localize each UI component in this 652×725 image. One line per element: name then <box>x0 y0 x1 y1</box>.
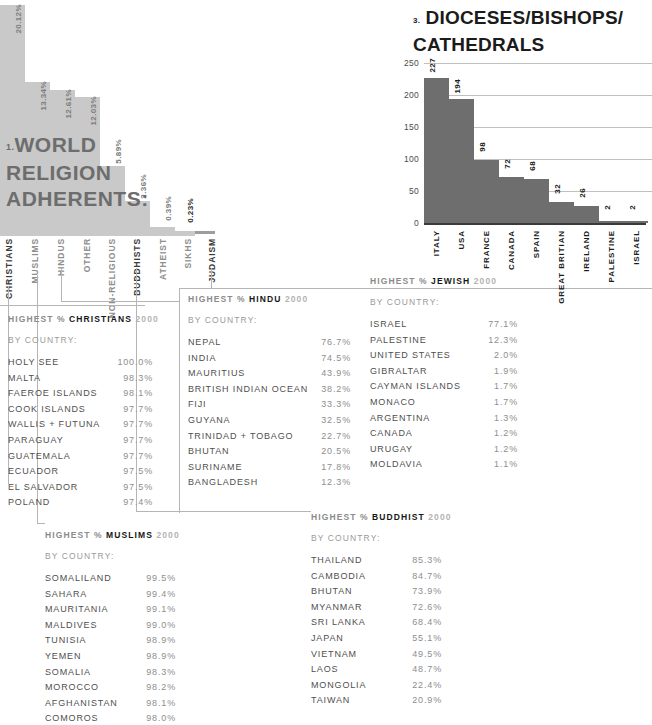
row-name: POLAND <box>8 495 50 511</box>
category-label-muslims: MUSLIMS <box>30 238 40 284</box>
row-name: FIJI <box>188 397 206 413</box>
list-item: BHUTAN20.5% <box>188 444 351 460</box>
diocese-value-ireland: 26 <box>578 188 587 198</box>
row-name: WALLIS + FUTUNA <box>8 417 100 433</box>
diocese-category-canada: CANADA <box>507 230 516 270</box>
row-value: 99.5% <box>146 571 176 587</box>
list-item: POLAND97.4% <box>8 495 153 511</box>
row-name: URUGAY <box>370 442 413 458</box>
row-value: 68.4% <box>412 615 442 631</box>
row-value: 98.0% <box>146 711 176 725</box>
row-value: 100.0% <box>117 355 153 371</box>
list-item: GUYANA32.5% <box>188 413 351 429</box>
row-value: 99.0% <box>146 618 176 634</box>
connector-hindus-vertical <box>61 268 62 301</box>
diocese-bar-spain <box>524 179 549 223</box>
list-item: MONACO1.7% <box>370 395 518 411</box>
list-item: EL SALVADOR97.5% <box>8 480 153 496</box>
row-value: 98.3% <box>146 665 176 681</box>
row-value: 97.7% <box>123 402 153 418</box>
list-hindu-head-year: 2000 <box>285 294 308 304</box>
row-name: MONGOLIA <box>311 678 366 694</box>
ytick-100: 100 <box>397 154 419 164</box>
row-name: GIBRALTAR <box>370 364 427 380</box>
list-muslims-heading: HIGHEST % MUSLIMS 2000 <box>45 530 176 540</box>
row-name: MAURITANIA <box>45 602 108 618</box>
list-item: COOK ISLANDS97.7% <box>8 402 153 418</box>
category-label-sikhs: SIKHS <box>183 238 193 268</box>
ytick-150: 150 <box>397 122 419 132</box>
category-label-judaism: JUDAISM <box>207 238 217 283</box>
row-name: LAOS <box>311 662 338 678</box>
list-christians-rows: HOLY SEE100.0% MALTA98.3% FAEROE ISLANDS… <box>8 355 153 511</box>
row-value: 98.2% <box>146 680 176 696</box>
row-value: 1.7% <box>494 395 518 411</box>
list-christians-head-prefix: HIGHEST % <box>8 314 66 324</box>
list-item: MALTA98.3% <box>8 371 153 387</box>
row-value: 1.9% <box>494 364 518 380</box>
list-hindu-head-key: HINDU <box>249 294 281 304</box>
diocese-category-italy: ITALY <box>432 230 441 256</box>
row-value: 38.2% <box>321 382 351 398</box>
list-muslims: HIGHEST % MUSLIMS 2000 BY COUNTRY: SOMAL… <box>45 530 176 725</box>
row-name: BHUTAN <box>311 584 352 600</box>
list-buddhist-rows: THAILAND85.3% CAMBODIA84.7% BHUTAN73.9% … <box>311 553 442 709</box>
diocese-bar-canada <box>499 177 524 223</box>
list-jewish-rows: ISRAEL77.1% PALESTINE12.3% UNITED STATES… <box>370 317 518 473</box>
list-item: FIJI33.3% <box>188 397 351 413</box>
list-christians: HIGHEST % CHRISTIANS 2000 BY COUNTRY: HO… <box>8 314 153 511</box>
row-name: SAHARA <box>45 587 87 603</box>
connector-buddhists-horizontal <box>136 511 311 512</box>
bar-value-christians: 20.12% <box>14 4 23 34</box>
list-hindu: HIGHEST % HINDU 2000 BY COUNTRY: NEPAL76… <box>188 294 351 491</box>
bar-value-atheist: 0.39% <box>164 196 173 221</box>
row-name: ECUADOR <box>8 464 59 480</box>
row-name: MYANMAR <box>311 600 362 616</box>
list-hindu-subtitle: BY COUNTRY: <box>188 315 351 325</box>
list-item: MONGOLIA22.4% <box>311 678 442 694</box>
row-value: 77.1% <box>488 317 518 333</box>
row-value: 48.7% <box>412 662 442 678</box>
row-name: MOLDAVIA <box>370 457 423 473</box>
list-item: GUATEMALA97.7% <box>8 449 153 465</box>
row-name: CAYMAN ISLANDS <box>370 379 461 395</box>
category-label-non-religious: NON-RELIGIOUS <box>107 238 117 318</box>
row-value: 1.2% <box>494 442 518 458</box>
section-number-3: 3. <box>413 16 420 25</box>
diocese-value-great-britian: 32 <box>553 184 562 194</box>
list-buddhist-heading: HIGHEST % BUDDHIST 2000 <box>311 512 442 522</box>
gridline-200 <box>424 95 652 96</box>
list-item: UNITED STATES2.0% <box>370 348 518 364</box>
ytick-250: 250 <box>397 58 419 68</box>
list-item: PARAGUAY97.7% <box>8 433 153 449</box>
list-item: WALLIS + FUTUNA97.7% <box>8 417 153 433</box>
list-item: FAEROE ISLANDS98.1% <box>8 386 153 402</box>
list-item: CAYMAN ISLANDS1.7% <box>370 379 518 395</box>
category-label-buddhists: BUDDHISTS <box>132 238 142 296</box>
connector-christians-horizontal <box>0 305 145 306</box>
list-item: INDIA74.5% <box>188 351 351 367</box>
list-item: BHUTAN73.9% <box>311 584 442 600</box>
category-label-atheist: ATHEIST <box>158 238 168 280</box>
list-muslims-head-key: MUSLIMS <box>106 530 153 540</box>
row-name: COOK ISLANDS <box>8 402 86 418</box>
diocese-value-spain: 68 <box>528 161 537 171</box>
row-value: 1.1% <box>494 457 518 473</box>
list-item: BRITISH INDIAN OCEAN38.2% <box>188 382 351 398</box>
list-item: AFGHANISTAN98.1% <box>45 696 176 712</box>
list-item: MAURITIUS43.9% <box>188 366 351 382</box>
ytick-50: 50 <box>397 186 419 196</box>
row-name: MONACO <box>370 395 416 411</box>
row-value: 55.1% <box>412 631 442 647</box>
diocese-x-axis <box>424 223 646 225</box>
diocese-value-usa: 194 <box>453 79 462 94</box>
diocese-category-spain: SPAIN <box>532 230 541 258</box>
row-name: INDIA <box>188 351 216 367</box>
row-value: 12.3% <box>488 333 518 349</box>
diocese-category-great-britian: GREAT BRITIAN <box>557 230 566 304</box>
row-name: UNITED STATES <box>370 348 451 364</box>
row-value: 12.3% <box>321 475 351 491</box>
list-item: LAOS48.7% <box>311 662 442 678</box>
list-item: YEMEN98.9% <box>45 649 176 665</box>
row-name: MALTA <box>8 371 41 387</box>
